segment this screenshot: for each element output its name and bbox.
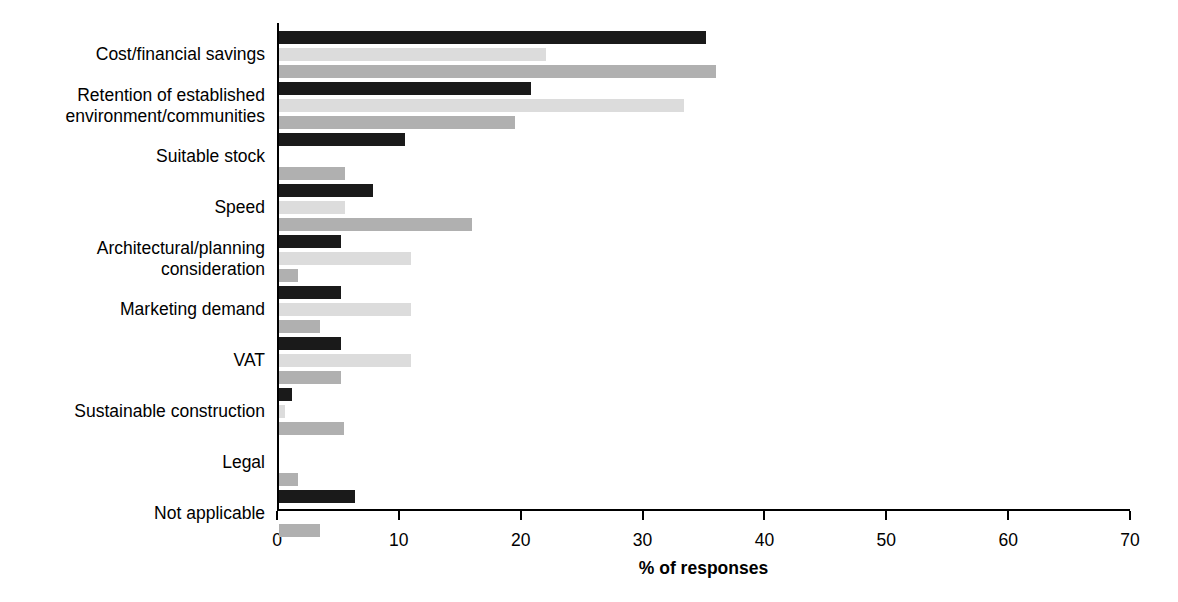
category-label: Retention of established environment/com…: [0, 85, 277, 127]
category-label-group: Sustainable construction: [0, 387, 277, 437]
bar: [279, 388, 292, 401]
category-label-group: Marketing demand: [0, 285, 277, 335]
bar: [279, 65, 716, 78]
category-label: Suitable stock: [0, 146, 277, 167]
x-tick-40: [763, 511, 765, 520]
bar: [279, 405, 285, 418]
x-axis-line: [277, 509, 1130, 511]
category-label: Architectural/planning consideration: [0, 238, 277, 280]
category-label: Marketing demand: [0, 299, 277, 320]
bar: [279, 82, 531, 95]
bar: [279, 269, 298, 282]
bar: [279, 286, 341, 299]
x-tick-label-20: 20: [511, 530, 530, 551]
x-tick-0: [276, 511, 278, 520]
y-axis-line: [277, 23, 279, 511]
x-tick-label-30: 30: [633, 530, 652, 551]
bar: [279, 303, 411, 316]
category-label-group: Architectural/planning consideration: [0, 234, 277, 284]
bar: [279, 31, 706, 44]
bar: [279, 48, 546, 61]
x-tick-label-10: 10: [389, 530, 408, 551]
bar: [279, 133, 405, 146]
bar: [279, 99, 684, 112]
bar: [279, 201, 345, 214]
bar: [279, 116, 515, 129]
category-label-group: Retention of established environment/com…: [0, 81, 277, 131]
bar: [279, 490, 355, 503]
bar: [279, 422, 344, 435]
bar: [279, 354, 411, 367]
x-tick-label-60: 60: [998, 530, 1017, 551]
x-tick-20: [520, 511, 522, 520]
x-tick-70: [1129, 511, 1131, 520]
bar: [279, 473, 298, 486]
category-label: Sustainable construction: [0, 401, 277, 422]
bar: [279, 252, 411, 265]
bar-chart: Cost/financial savingsRetention of estab…: [0, 0, 1178, 602]
category-label: VAT: [0, 350, 277, 371]
category-label: Speed: [0, 197, 277, 218]
bar: [279, 167, 345, 180]
category-label: Cost/financial savings: [0, 44, 277, 65]
x-tick-label-70: 70: [1120, 530, 1139, 551]
bar: [279, 371, 341, 384]
category-label-group: Speed: [0, 183, 277, 233]
category-label-group: Not applicable: [0, 489, 277, 539]
category-label: Not applicable: [0, 503, 277, 524]
x-axis-title: % of responses: [277, 558, 1130, 579]
category-label-group: Suitable stock: [0, 132, 277, 182]
x-tick-60: [1007, 511, 1009, 520]
bar: [279, 235, 341, 248]
x-tick-label-50: 50: [877, 530, 896, 551]
bar: [279, 218, 472, 231]
x-tick-10: [398, 511, 400, 520]
bar: [279, 184, 373, 197]
x-tick-label-40: 40: [755, 530, 774, 551]
category-label-group: VAT: [0, 336, 277, 386]
category-label-group: Cost/financial savings: [0, 30, 277, 80]
category-label-group: Legal: [0, 438, 277, 488]
category-label: Legal: [0, 452, 277, 473]
bar: [279, 337, 341, 350]
bar: [279, 320, 320, 333]
x-tick-50: [885, 511, 887, 520]
plot-area: 010203040506070: [277, 23, 1130, 511]
x-tick-30: [642, 511, 644, 520]
bar: [279, 524, 320, 537]
